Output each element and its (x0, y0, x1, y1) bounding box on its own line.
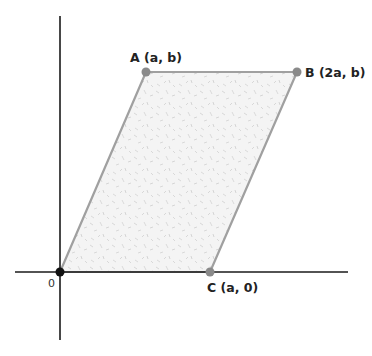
point-c-label: C (a, 0) (207, 280, 258, 295)
point-b-label: B (2a, b) (305, 65, 366, 80)
coordinate-diagram: A (a, b) B (2a, b) C (a, 0) 0 (0, 0, 372, 356)
origin-label: 0 (48, 277, 55, 290)
point-a-marker (142, 68, 151, 77)
point-a-label: A (a, b) (130, 50, 182, 65)
point-b-marker (293, 68, 302, 77)
point-c-marker (206, 268, 215, 277)
origin-marker (56, 268, 65, 277)
parallelogram-region (60, 72, 297, 272)
